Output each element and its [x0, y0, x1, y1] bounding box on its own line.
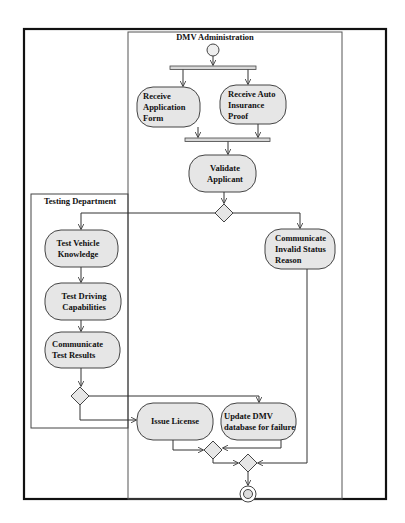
- label-receive-auto-insurance-proof: Receive Auto Insurance Proof: [228, 88, 284, 122]
- decision-test-passed: [71, 387, 89, 405]
- join-bar: [185, 138, 270, 142]
- fork-bar: [170, 66, 256, 70]
- initial-node: [207, 44, 219, 56]
- merge-node-1: [204, 441, 222, 459]
- lane-title-testing-department: Testing Department: [34, 196, 126, 206]
- label-communicate-test-results: Communicate Test Results: [52, 335, 118, 365]
- label-communicate-invalid-status-reason: Communicate Invalid Status Reason: [275, 231, 331, 267]
- label-test-driving-capabilities: Test Driving Capabilities: [58, 286, 110, 317]
- label-issue-license: Issue License: [140, 406, 210, 437]
- label-test-vehicle-knowledge: Test Vehicle Knowledge: [53, 233, 103, 264]
- label-validate-applicant: Validate Applicant: [196, 158, 254, 189]
- merge-node-2: [239, 454, 257, 472]
- label-update-dmv-database: Update DMV database for failure: [224, 406, 296, 437]
- decision-valid-applicant: [215, 204, 233, 222]
- label-receive-application-form: Receive Application Form: [143, 90, 199, 124]
- lane-title-dmv-administration: DMV Administration: [150, 32, 280, 42]
